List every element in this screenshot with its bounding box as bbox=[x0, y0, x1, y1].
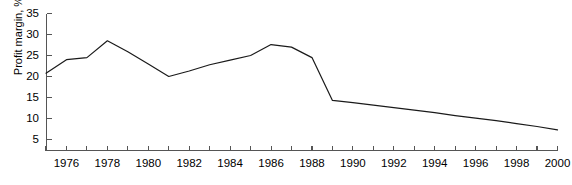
series-line-profit-margin bbox=[46, 41, 558, 130]
axes bbox=[46, 14, 558, 151]
plot-area bbox=[0, 0, 572, 185]
profit-margin-line-chart: Profit margin, % 5101520253035 197619781… bbox=[0, 0, 572, 185]
data-series bbox=[46, 41, 558, 130]
